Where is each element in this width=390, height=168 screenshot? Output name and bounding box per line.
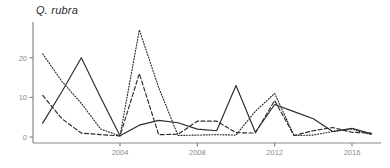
x-tick-label: 2004 bbox=[112, 148, 129, 157]
series-line-solid bbox=[43, 58, 372, 136]
series-line-dotted bbox=[43, 30, 372, 136]
chart-figure: Q. rubra 010202004200820122016 bbox=[0, 0, 390, 168]
x-tick-label: 2012 bbox=[266, 148, 283, 157]
x-tick-label: 2008 bbox=[189, 148, 206, 157]
series-line-dashed bbox=[43, 74, 372, 136]
line-chart-plot: 010202004200820122016 bbox=[0, 0, 390, 168]
y-tick-label: 0 bbox=[23, 133, 27, 142]
axes bbox=[33, 22, 381, 143]
x-tick-label: 2016 bbox=[344, 148, 361, 157]
y-tick-label: 20 bbox=[19, 54, 27, 63]
y-tick-label: 10 bbox=[19, 93, 27, 102]
